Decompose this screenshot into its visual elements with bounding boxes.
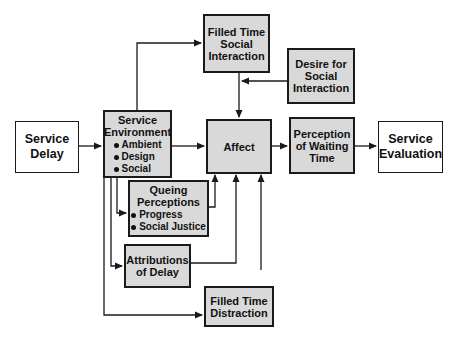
- node-label-line: of Waiting: [296, 140, 349, 152]
- node-queing-perceptions: Queing Perceptions Progress Social Justi…: [128, 180, 209, 237]
- node-label-line: Desire for: [295, 58, 346, 70]
- diagram-canvas: Service Delay Service Environment Ambien…: [0, 0, 455, 342]
- node-label-line: Perceptions: [137, 196, 200, 208]
- arrow-queing-to-affect: [209, 175, 215, 207]
- node-service-evaluation: Service Evaluation: [378, 121, 443, 173]
- node-perception-of-waiting-time: Perception of Waiting Time: [289, 117, 355, 174]
- node-label-line: Social: [220, 38, 252, 50]
- bullet-list: Progress Social Justice: [131, 209, 206, 233]
- node-desire-for-social-interaction: Desire for Social Interaction: [287, 48, 355, 104]
- node-filled-time-social-interaction: Filled Time Social Interaction: [203, 14, 270, 73]
- node-service-environment: Service Environment Ambient Design Socia…: [103, 110, 172, 178]
- node-attributions-of-delay: Attributions of Delay: [124, 244, 191, 288]
- node-label-line: Time: [309, 152, 334, 164]
- bullet-item: Ambient: [114, 139, 162, 151]
- arrow-environment-to-social-interaction: [137, 43, 201, 110]
- bullet-item: Social: [114, 163, 162, 175]
- node-label-line: Service: [25, 132, 69, 147]
- node-affect: Affect: [206, 119, 272, 174]
- node-label-line: Affect: [223, 141, 254, 153]
- node-label-line: Evaluation: [379, 147, 442, 162]
- node-label-line: Perception: [294, 128, 351, 140]
- node-filled-time-distraction: Filled Time Distraction: [204, 286, 274, 327]
- arrow-environment-to-queing: [117, 178, 126, 213]
- node-label-line: Filled Time: [210, 295, 267, 307]
- bullet-item: Progress: [131, 209, 206, 221]
- node-service-delay: Service Delay: [15, 121, 79, 173]
- node-label-line: Delay: [30, 147, 63, 162]
- node-label-line: Filled Time: [208, 26, 265, 38]
- node-label-line: Environment: [104, 126, 171, 138]
- node-label-line: Service: [388, 132, 432, 147]
- bullet-list: Ambient Design Social: [114, 139, 162, 175]
- node-label-line: Service: [118, 114, 157, 126]
- bullet-item: Design: [114, 151, 162, 163]
- node-label-line: Queing: [150, 184, 188, 196]
- node-label-line: Interaction: [293, 82, 349, 94]
- bullet-item: Social Justice: [131, 221, 206, 233]
- node-label-line: Interaction: [208, 50, 264, 62]
- node-label-line: of Delay: [136, 266, 179, 278]
- node-label-line: Distraction: [210, 307, 267, 319]
- node-label-line: Social: [305, 70, 337, 82]
- node-label-line: Attributions: [126, 254, 188, 266]
